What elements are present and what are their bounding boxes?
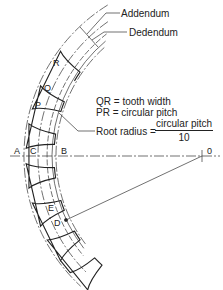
fraction-denominator: 10 xyxy=(155,131,213,143)
point-label-p: P xyxy=(35,101,41,110)
depth-dimension-line xyxy=(80,27,98,47)
fraction-numerator: circular pitch xyxy=(155,118,213,131)
dedendum-label: Dedendum xyxy=(129,28,178,38)
point-d-marker xyxy=(64,218,67,221)
dedendum-leader xyxy=(92,32,127,40)
point-label-a: A xyxy=(14,147,20,156)
root-radius-leader xyxy=(59,113,95,131)
point-label-d: D xyxy=(54,219,61,228)
radius-line-to-d xyxy=(66,156,202,220)
tooth-width-definition: QR = tooth width xyxy=(96,97,171,107)
point-label-o: 0 xyxy=(207,147,212,156)
pitch-circle xyxy=(38,22,108,272)
point-label-r: R xyxy=(53,59,60,68)
root-radius-label: Root radius = xyxy=(96,127,156,137)
root-radius-fraction: circular pitch 10 xyxy=(155,118,213,143)
circular-pitch-definition: PR = circular pitch xyxy=(96,108,177,118)
point-label-c: C xyxy=(30,147,37,156)
point-label-b: B xyxy=(61,147,67,156)
point-label-e: E xyxy=(48,204,54,213)
addendum-label: Addendum xyxy=(121,9,169,19)
gear-drawing xyxy=(0,0,223,290)
point-label-q: Q xyxy=(44,84,51,93)
